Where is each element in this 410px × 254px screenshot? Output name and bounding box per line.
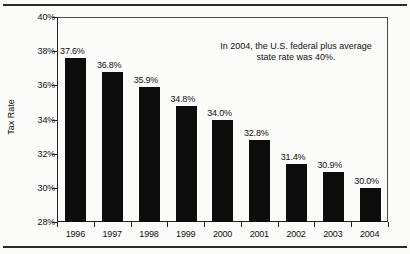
x-axis-tick-mark (351, 222, 352, 227)
chart-page: Tax Rate 40%38%36%34%32%30%28% 37.6%36.8… (0, 0, 410, 254)
x-axis-tick-mark (204, 222, 205, 227)
bar-value-label: 31.4% (281, 152, 306, 162)
bar (212, 120, 233, 223)
x-axis-tick-mark (278, 222, 279, 227)
bar-value-label: 34.0% (207, 108, 232, 118)
bar-group: 36.8% (94, 17, 131, 222)
chart-annotation: In 2004, the U.S. federal plus average s… (205, 41, 387, 63)
bar-value-label: 30.0% (354, 176, 379, 186)
bar (323, 172, 344, 222)
bar (249, 140, 270, 222)
bar-group: 35.9% (131, 17, 168, 222)
x-axis-tick-label: 1996 (66, 229, 85, 239)
bottom-divider-rule (3, 246, 407, 248)
x-axis-tick-mark (388, 222, 389, 227)
bar-value-label: 30.9% (318, 160, 343, 170)
x-axis-tick-mark (57, 222, 58, 227)
bar-group: 37.6% (57, 17, 94, 222)
x-axis-tick-label: 1999 (176, 229, 195, 239)
x-axis-tick-label: 2003 (323, 229, 342, 239)
top-divider-rule (3, 4, 407, 6)
x-axis-tick-mark (94, 222, 95, 227)
bar-value-label: 35.9% (134, 75, 159, 85)
x-axis-tick-label: 2000 (213, 229, 232, 239)
bar-group: 34.8% (167, 17, 204, 222)
x-axis-tick-mark (131, 222, 132, 227)
x-axis-tick-label: 2002 (286, 229, 305, 239)
bar-value-label: 34.8% (170, 94, 195, 104)
x-axis-tick-mark (241, 222, 242, 227)
bar-value-label: 32.8% (244, 128, 269, 138)
bar (102, 72, 123, 222)
x-axis-tick-label: 2001 (250, 229, 269, 239)
bar (139, 87, 160, 222)
x-axis-tick-mark (314, 222, 315, 227)
bar (176, 106, 197, 222)
y-axis-title: Tax Rate (6, 87, 16, 147)
bar (65, 58, 86, 222)
annotation-line-2: state rate was 40%. (205, 52, 387, 63)
bar (286, 164, 307, 222)
x-axis-tick-label: 1997 (103, 229, 122, 239)
x-axis-tick-label: 1998 (139, 229, 158, 239)
x-axis-tick-mark (167, 222, 168, 227)
bar-value-label: 36.8% (97, 60, 122, 70)
bar-value-label: 37.6% (60, 46, 85, 56)
bar (360, 188, 381, 222)
x-axis-tick-label: 2004 (360, 229, 379, 239)
annotation-line-1: In 2004, the U.S. federal plus average (220, 41, 372, 51)
